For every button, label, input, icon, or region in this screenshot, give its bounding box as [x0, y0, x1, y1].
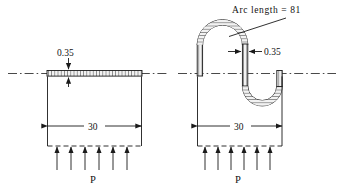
- left-thickness-dimension: 0.35: [57, 48, 74, 87]
- left-panel: 0.35 30 P: [8, 48, 168, 185]
- right-load-label: P: [235, 174, 241, 185]
- right-thickness-dimension: 0.35: [228, 47, 281, 57]
- left-load-arrows: [57, 147, 127, 170]
- left-strip: [47, 71, 142, 77]
- left-span-label: 30: [88, 122, 98, 132]
- right-thickness-label: 0.35: [264, 47, 281, 57]
- arc-length-label: Arc length = 81: [232, 5, 301, 15]
- right-span-label: 30: [234, 122, 244, 132]
- diagram-canvas: 0.35 30 P: [0, 0, 342, 187]
- engineering-figure: 0.35 30 P: [0, 0, 342, 187]
- right-load-arrows: [205, 147, 270, 170]
- left-thickness-label: 0.35: [57, 48, 74, 58]
- left-span-dimension: 30: [48, 119, 142, 132]
- right-panel: 0.35 Arc length = 81 30: [178, 5, 336, 185]
- right-span-dimension: 30: [198, 119, 283, 132]
- left-load-label: P: [90, 174, 96, 185]
